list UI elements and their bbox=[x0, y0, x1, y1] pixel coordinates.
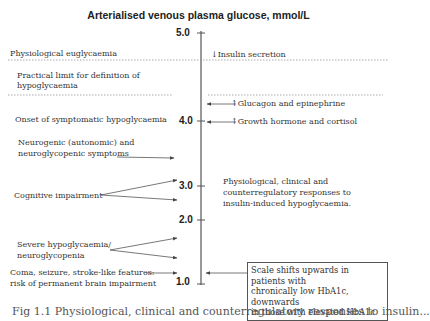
label-responses-3: insulin-induced hypoglycaemia. bbox=[223, 199, 351, 209]
label-responses-2: counterregulatory responses to bbox=[223, 188, 351, 198]
label-euglycaemia: Physiological euglycaemia bbox=[10, 49, 117, 59]
figure-caption-partial: Fig 1.1 Physiological, clinical and coun… bbox=[12, 305, 430, 318]
label-growth-hormone: ↑Growth hormone and cortisol bbox=[231, 117, 357, 127]
tick-label-5: 5.0 bbox=[176, 27, 190, 38]
label-practical-limit-2: hypoglycaemia bbox=[17, 81, 78, 91]
label-cognitive: Cognitive impairment bbox=[14, 191, 102, 201]
tick-label-3: 3.0 bbox=[179, 180, 193, 191]
label-coma-2: risk of permanent brain impairment bbox=[10, 279, 156, 289]
tick-label-1: 1.0 bbox=[176, 276, 190, 287]
label-neurogenic-1: Neurogenic (autonomic) and bbox=[18, 138, 135, 148]
label-severe-1: Severe hypoglycaemia/ bbox=[17, 240, 111, 250]
label-responses-1: Physiological, clinical and bbox=[223, 177, 328, 187]
label-coma-1: Coma, seizure, stroke-like features: bbox=[10, 268, 154, 278]
label-onset: Onset of symptomatic hypoglycaemia bbox=[15, 115, 167, 125]
label-neurogenic-2: neuroglycopenic symptoms bbox=[18, 149, 129, 159]
label-glucagon: ↑Glucagon and epinephrine bbox=[231, 99, 345, 109]
note-line-1: Scale shifts upwards in patients with bbox=[251, 265, 384, 286]
label-practical-limit-1: Practical limit for definition of bbox=[17, 71, 140, 81]
note-line-2: chronically low HbA1c, downwards bbox=[251, 286, 384, 307]
tick-label-4: 4.0 bbox=[179, 115, 193, 126]
tick-label-2: 2.0 bbox=[179, 214, 193, 225]
label-severe-2: neuroglycopenia bbox=[17, 251, 85, 261]
label-insulin-secretion: ↓Insulin secretion bbox=[211, 50, 286, 60]
